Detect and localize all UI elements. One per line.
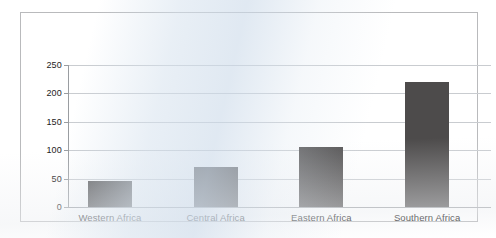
y-tick-200: 200 bbox=[21, 88, 62, 98]
x-label-central-africa: Central Africa bbox=[163, 212, 269, 223]
y-tick-250: 250 bbox=[21, 60, 62, 70]
y-tick-50: 50 bbox=[21, 174, 62, 184]
y-tick-150: 150 bbox=[21, 117, 62, 127]
bar-western-africa bbox=[88, 181, 132, 207]
chart-screenshot: 050100150200250 Western AfricaCentral Af… bbox=[0, 0, 496, 238]
y-tick-mark bbox=[64, 207, 68, 208]
y-tick-label: 0 bbox=[57, 202, 62, 212]
y-tick-mark bbox=[64, 65, 68, 66]
y-tick-mark bbox=[64, 150, 68, 151]
y-tick-label: 200 bbox=[46, 88, 62, 98]
gridline-0 bbox=[68, 207, 491, 208]
y-tick-label: 100 bbox=[46, 145, 62, 155]
x-label-southern-africa: Southern Africa bbox=[374, 212, 480, 223]
y-tick-label: 150 bbox=[46, 117, 62, 127]
y-tick-100: 100 bbox=[21, 145, 62, 155]
y-axis-line bbox=[68, 65, 69, 208]
y-tick-label: 50 bbox=[52, 174, 62, 184]
bar-eastern-africa bbox=[299, 147, 343, 207]
chart-frame: 050100150200250 Western AfricaCentral Af… bbox=[20, 12, 478, 222]
x-label-western-africa: Western Africa bbox=[57, 212, 163, 223]
gridline-250 bbox=[68, 65, 491, 66]
y-tick-label: 250 bbox=[46, 60, 62, 70]
y-tick-0: 0 bbox=[21, 202, 62, 212]
plot-area bbox=[68, 65, 491, 207]
y-tick-mark bbox=[64, 122, 68, 123]
bar-southern-africa bbox=[405, 82, 449, 207]
x-label-eastern-africa: Eastern Africa bbox=[269, 212, 375, 223]
y-tick-mark bbox=[64, 179, 68, 180]
bar-central-africa bbox=[194, 167, 238, 207]
y-tick-mark bbox=[64, 93, 68, 94]
